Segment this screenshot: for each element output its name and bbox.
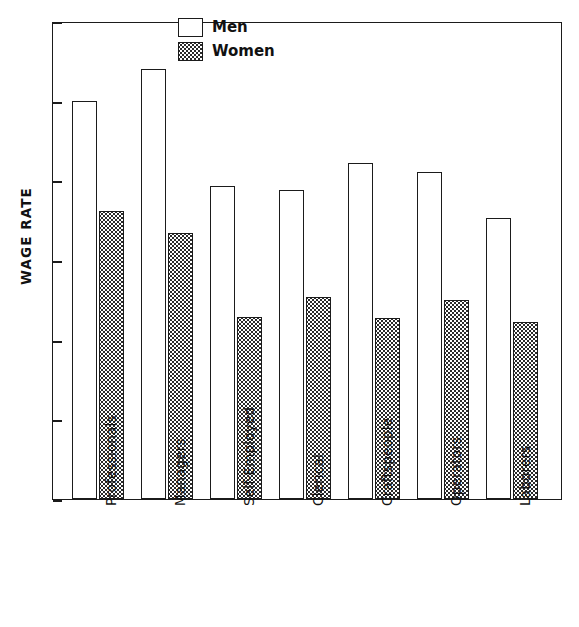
y-tick-mark — [53, 341, 62, 343]
y-tick-mark — [53, 261, 62, 263]
bar-laborers-men — [486, 218, 511, 499]
bar-professionals-men — [72, 101, 97, 499]
bar-operators-men — [417, 172, 442, 499]
x-axis-label-laborers: Laborers — [517, 446, 533, 506]
legend-label-men: Men — [212, 18, 248, 36]
y-tick-mark — [53, 420, 62, 422]
x-axis-label-operators: Operators — [448, 437, 464, 506]
x-axis-label-craftspeople: Craftspeople — [379, 418, 395, 506]
bar-clerical-men — [279, 190, 304, 499]
plot-area: 0l23456 — [52, 22, 562, 500]
x-axis-label-self-employed: Self-Employed — [241, 407, 257, 506]
y-tick-mark — [53, 22, 62, 24]
y-tick-mark — [53, 102, 62, 104]
chart-legend: Men Women — [178, 15, 348, 63]
legend-swatch-men-icon — [178, 18, 203, 37]
legend-swatch-women-icon — [178, 42, 203, 61]
legend-item-women: Women — [178, 39, 348, 63]
legend-item-men: Men — [178, 15, 348, 39]
bar-craftspeople-men — [348, 163, 373, 499]
y-axis-title: WAGE RATE — [18, 166, 34, 306]
bar-managers-men — [141, 69, 166, 499]
wage-rate-bar-chart: WAGE RATE 0l23456 ProfessionalsManagersS… — [0, 0, 579, 627]
x-axis-label-managers: Managers — [172, 438, 188, 506]
y-tick-mark — [53, 181, 62, 183]
x-axis-label-professionals: Professionals — [103, 415, 119, 506]
bar-self-employed-men — [210, 186, 235, 499]
legend-label-women: Women — [212, 42, 275, 60]
y-tick-mark — [53, 500, 62, 502]
x-axis-label-clerical: Clerical — [310, 454, 326, 506]
